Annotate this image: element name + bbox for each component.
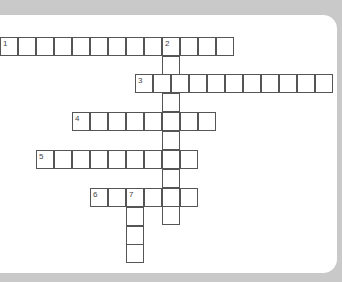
crossword-cell[interactable] bbox=[72, 37, 90, 56]
crossword-cell[interactable]: 2 bbox=[162, 37, 180, 56]
crossword-cell[interactable] bbox=[162, 56, 180, 75]
crossword-cell[interactable] bbox=[279, 74, 297, 93]
clue-number: 7 bbox=[129, 190, 133, 199]
crossword-cell[interactable] bbox=[261, 74, 279, 93]
crossword-cell[interactable]: 4 bbox=[72, 112, 90, 131]
crossword-cell[interactable] bbox=[162, 206, 180, 225]
crossword-cell[interactable] bbox=[54, 37, 72, 56]
crossword-cell[interactable]: 1 bbox=[0, 37, 18, 56]
crossword-cell[interactable] bbox=[144, 37, 162, 56]
crossword-cell[interactable] bbox=[198, 37, 216, 56]
crossword-cell[interactable] bbox=[162, 188, 180, 207]
crossword-cell[interactable] bbox=[216, 37, 234, 56]
crossword-cell[interactable] bbox=[198, 112, 216, 131]
crossword-cell[interactable]: 6 bbox=[90, 188, 108, 207]
clue-number: 3 bbox=[138, 76, 142, 85]
crossword-cell[interactable] bbox=[225, 74, 243, 93]
crossword-cell[interactable] bbox=[180, 37, 198, 56]
crossword-cell[interactable] bbox=[180, 150, 198, 169]
crossword-cell[interactable]: 3 bbox=[135, 74, 153, 93]
clue-number: 1 bbox=[3, 39, 7, 48]
crossword-cell[interactable]: 7 bbox=[126, 188, 144, 207]
crossword-cell[interactable] bbox=[90, 37, 108, 56]
crossword-cell[interactable] bbox=[315, 74, 333, 93]
clue-number: 5 bbox=[39, 152, 43, 161]
crossword-cell[interactable] bbox=[243, 74, 261, 93]
clue-number: 4 bbox=[75, 114, 79, 123]
crossword-cell[interactable] bbox=[90, 112, 108, 131]
crossword-cell[interactable] bbox=[126, 37, 144, 56]
crossword-cell[interactable] bbox=[162, 93, 180, 112]
clue-number: 2 bbox=[165, 39, 169, 48]
crossword-cell[interactable] bbox=[126, 112, 144, 131]
clue-number: 6 bbox=[93, 190, 97, 199]
crossword-cell[interactable] bbox=[144, 150, 162, 169]
crossword-cell[interactable] bbox=[180, 112, 198, 131]
crossword-cell[interactable] bbox=[126, 150, 144, 169]
crossword-cell[interactable]: 5 bbox=[36, 150, 54, 169]
crossword-cell[interactable] bbox=[207, 74, 225, 93]
crossword-cell[interactable] bbox=[162, 131, 180, 150]
crossword-cell[interactable] bbox=[162, 150, 180, 169]
crossword-cell[interactable] bbox=[162, 112, 180, 131]
crossword-cell[interactable] bbox=[72, 150, 90, 169]
crossword-cell[interactable] bbox=[108, 37, 126, 56]
crossword-cell[interactable] bbox=[180, 188, 198, 207]
crossword-cell[interactable] bbox=[126, 207, 144, 226]
crossword-cell[interactable] bbox=[108, 112, 126, 131]
crossword-cell[interactable] bbox=[144, 188, 162, 207]
crossword-cell[interactable] bbox=[54, 150, 72, 169]
crossword-cell[interactable] bbox=[153, 74, 171, 93]
crossword-cell[interactable] bbox=[18, 37, 36, 56]
crossword-cell[interactable] bbox=[144, 112, 162, 131]
crossword-cell[interactable] bbox=[126, 226, 144, 245]
crossword-cell[interactable] bbox=[90, 150, 108, 169]
crossword-cell[interactable] bbox=[297, 74, 315, 93]
crossword-cell[interactable] bbox=[126, 244, 144, 263]
crossword-cell[interactable] bbox=[108, 188, 126, 207]
crossword-cell[interactable] bbox=[36, 37, 54, 56]
crossword-cell[interactable] bbox=[171, 74, 189, 93]
crossword-cell[interactable] bbox=[189, 74, 207, 93]
crossword-cell[interactable] bbox=[108, 150, 126, 169]
crossword-cell[interactable] bbox=[162, 169, 180, 188]
